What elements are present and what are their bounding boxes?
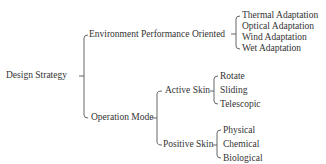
- leaf-thermal: Thermal Adaptation: [242, 10, 318, 21]
- branch-operation: Operation Mode: [91, 112, 154, 123]
- leaf-wet: Wet Adaptation: [242, 43, 301, 54]
- leaf-sliding: Sliding: [220, 85, 247, 96]
- node-active-skin: Active Skin: [165, 85, 210, 96]
- op-bracket: [157, 91, 162, 145]
- env-bracket: [236, 16, 240, 49]
- leaf-chemical: Chemical: [223, 139, 259, 150]
- node-positive-skin: Positive Skin: [163, 139, 213, 150]
- leaf-rotate: Rotate: [220, 71, 245, 82]
- branch-environment: Environment Performance Oriented: [89, 29, 225, 40]
- leaf-physical: Physical: [223, 125, 255, 136]
- leaf-telescopic: Telescopic: [220, 99, 260, 110]
- root-bracket: [84, 35, 88, 118]
- positive-bracket: [217, 130, 221, 158]
- leaf-optical: Optical Adaptation: [242, 21, 314, 32]
- root-node: Design Strategy: [6, 70, 67, 81]
- leaf-biological: Biological: [223, 153, 263, 164]
- active-bracket: [214, 76, 218, 104]
- leaf-wind: Wind Adaptation: [242, 32, 307, 43]
